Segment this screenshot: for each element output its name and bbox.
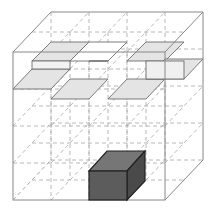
dark-cube-front — [89, 171, 127, 200]
cube-grid-diagram — [0, 0, 212, 215]
dark-cube — [89, 151, 145, 200]
